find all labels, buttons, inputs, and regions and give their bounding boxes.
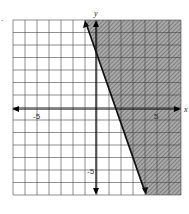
x-tick-pos5: 5 [154, 112, 159, 121]
x-axis-label: x [183, 105, 188, 114]
x-tick-neg5: -5 [33, 112, 41, 121]
y-tick-neg5: -5 [87, 167, 95, 176]
arrow-down-icon [93, 188, 99, 195]
inequality-graph: y x -5 5 -5 . [0, 0, 189, 214]
corner-mark: . [1, 14, 3, 23]
y-axis-label: y [93, 9, 98, 18]
